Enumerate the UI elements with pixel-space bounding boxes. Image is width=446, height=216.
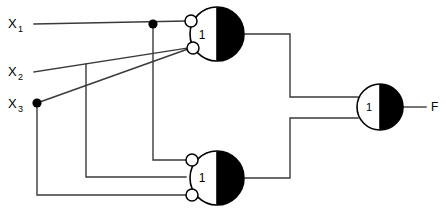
output-label-f: F (431, 100, 438, 114)
gate-top-input-bubble-1 (185, 15, 197, 27)
gate-bottom-input-bubble-1 (186, 154, 198, 166)
wire-bottom-out (245, 118, 358, 178)
circuit-diagram-canvas: 1 1 1 X 1 X 2 X (0, 0, 446, 216)
gate-top[interactable]: 1 (185, 7, 244, 61)
logic-circuit-svg: 1 1 1 X 1 X 2 X (0, 0, 446, 216)
input-label-x3: X (8, 96, 17, 111)
gate-bottom-input-bubble-3 (186, 189, 198, 201)
input-labels: X 1 X 2 X 3 (8, 16, 23, 114)
wire-x1-main (34, 21, 186, 24)
gate-output-symbol: 1 (366, 101, 372, 113)
gate-top-symbol: 1 (199, 28, 206, 42)
input-label-x3-subscript: 3 (18, 104, 23, 114)
gate-bottom-symbol: 1 (199, 171, 206, 185)
input-label-x1-subscript: 1 (18, 24, 23, 34)
input-label-x1: X (8, 16, 17, 31)
junction-dot-x3 (32, 98, 41, 107)
wire-x3-branch (37, 103, 186, 195)
wire-x3-main (37, 49, 188, 103)
junction-dot-x1 (148, 19, 157, 28)
wire-x1-branch (153, 24, 186, 160)
wire-top-out (245, 34, 358, 97)
gate-top-input-bubble-2 (187, 42, 199, 54)
gate-bottom[interactable]: 1 (186, 151, 244, 205)
gate-output[interactable]: 1 (357, 84, 403, 130)
wire-x2-main (34, 48, 188, 72)
input-label-x2-subscript: 2 (18, 72, 23, 82)
input-label-x2: X (8, 64, 17, 79)
